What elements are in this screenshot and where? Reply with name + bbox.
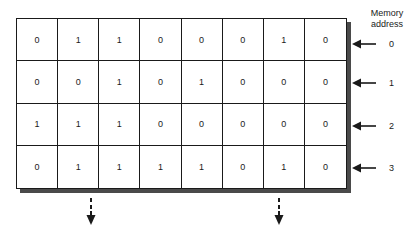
address-number: 1 [389,78,394,88]
dashed-down-arrow-icon [274,198,284,226]
address-number: 0 [389,39,394,49]
memory-cell: 0 [223,104,264,146]
memory-cell: 0 [223,19,264,61]
memory-cell: 1 [264,146,305,188]
memory-cell: 1 [58,146,99,188]
memory-cell: 0 [305,61,346,103]
left-arrow-icon [352,39,376,49]
memory-cell: 0 [140,61,181,103]
dashed-down-arrow-icon [86,198,96,226]
address-pointer-0: 0 [352,38,394,50]
address-pointer-1: 1 [352,77,394,89]
memory-cell: 1 [99,61,140,103]
memory-cell: 0 [140,19,181,61]
memory-cell: 0 [305,146,346,188]
memory-cell: 0 [140,104,181,146]
memory-cell: 1 [58,104,99,146]
memory-cell: 0 [305,104,346,146]
memory-cell: 1 [182,146,223,188]
memory-cell: 0 [17,146,58,188]
memory-cell: 0 [264,61,305,103]
left-arrow-icon [352,78,376,88]
memory-grid: 0 1 1 0 0 0 1 0 0 0 1 0 1 0 0 0 1 1 1 0 … [16,18,347,189]
left-arrow-icon [352,163,376,173]
memory-cell: 0 [182,19,223,61]
memory-cell: 0 [58,61,99,103]
memory-cell: 0 [305,19,346,61]
address-number: 3 [389,163,394,173]
address-pointer-2: 2 [352,120,394,132]
memory-cell: 1 [17,104,58,146]
memory-cell: 0 [264,104,305,146]
memory-cell: 1 [99,19,140,61]
memory-cell: 1 [58,19,99,61]
memory-cell: 0 [17,61,58,103]
memory-cell: 0 [17,19,58,61]
memory-cell: 1 [140,146,181,188]
memory-cell: 0 [223,146,264,188]
memory-cell: 0 [182,104,223,146]
memory-cell: 0 [223,61,264,103]
address-number: 2 [389,121,394,131]
memory-cell: 1 [99,146,140,188]
memory-cell: 1 [99,104,140,146]
memory-cell: 1 [182,61,223,103]
left-arrow-icon [352,121,376,131]
memory-address-label-line2: address [364,19,410,30]
memory-address-label-line1: Memory [364,8,410,19]
memory-address-label: Memory address [364,8,410,30]
address-pointer-3: 3 [352,162,394,174]
memory-cell: 1 [264,19,305,61]
